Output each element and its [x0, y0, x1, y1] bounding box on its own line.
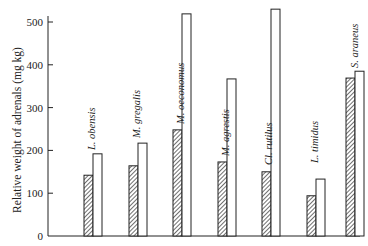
bar-hatched: [307, 196, 316, 236]
chart-canvas: 0100200300400500 L. obensisM. gregalisM.…: [0, 0, 368, 246]
category-label: M. agrestis: [220, 109, 231, 157]
bar-hatched: [129, 166, 138, 236]
bar-open: [93, 154, 102, 236]
category-label: M. oeconomus: [175, 63, 186, 125]
bar-hatched: [84, 175, 93, 236]
category-label: L. obensis: [86, 107, 97, 151]
bar-hatched: [262, 172, 271, 236]
y-tick-label: 400: [27, 59, 44, 71]
bar-chart: 0100200300400500 L. obensisM. gregalisM.…: [0, 0, 368, 246]
bar-hatched: [173, 130, 182, 236]
y-tick-label: 100: [27, 187, 44, 199]
category-label: Cl. rutilus: [263, 122, 274, 165]
bar-hatched: [346, 78, 355, 236]
y-axis-label: Relative weight of adrenals (mg kg): [11, 47, 24, 213]
y-tick-label: 0: [38, 230, 44, 242]
category-label: L. timidus: [309, 121, 320, 164]
category-labels: L. obensisM. gregalisM. oeconomusM. agre…: [86, 24, 360, 165]
bar-open: [316, 179, 325, 236]
y-tick-label: 300: [27, 102, 44, 114]
bar-open: [227, 79, 236, 236]
bar-open: [355, 71, 364, 236]
category-label: S. araneus: [349, 24, 360, 68]
bar-hatched: [218, 162, 227, 236]
y-tick-label: 500: [27, 16, 44, 28]
y-tick-label: 200: [27, 144, 44, 156]
bar-open: [138, 143, 147, 236]
category-label: M. gregalis: [131, 90, 142, 139]
